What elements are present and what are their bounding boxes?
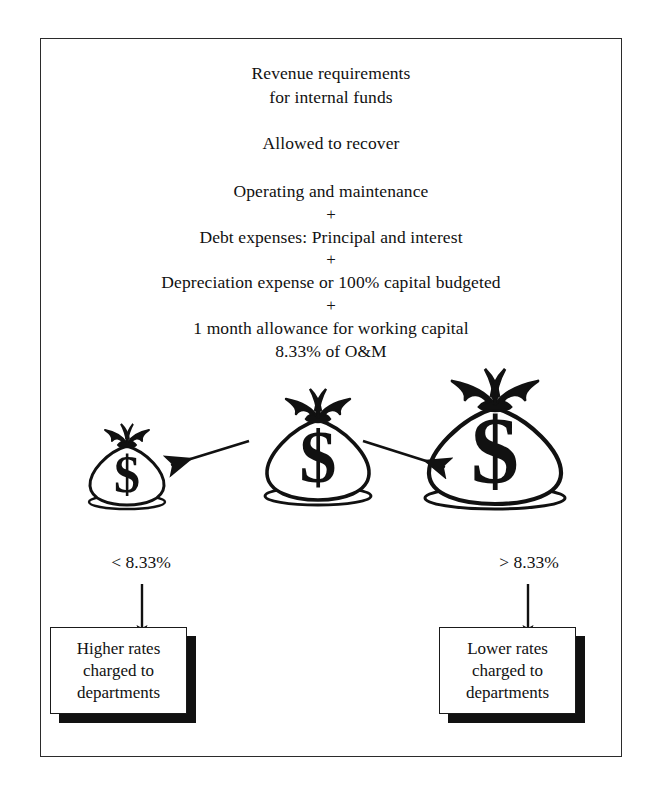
outcome-left-line-2: charged to <box>83 660 154 682</box>
subtitle-text: Allowed to recover <box>41 132 621 156</box>
title-line-2: for internal funds <box>41 86 621 110</box>
formula-line-percent-of-om: 8.33% of O&M <box>41 340 621 364</box>
large-money-bag: $ <box>409 364 581 514</box>
outcome-right-line-2: charged to <box>472 660 543 682</box>
medium-money-bag: $ <box>252 382 384 510</box>
formula-plus-1: + <box>41 204 621 226</box>
outcome-box-right: Lower rates charged to departments <box>439 627 576 714</box>
money-bag-row: $ $ <box>41 369 623 514</box>
title-line-1: Revenue requirements <box>41 62 621 86</box>
formula-plus-2: + <box>41 249 621 271</box>
outcome-box-left-wrapper: Higher rates charged to departments <box>50 627 196 723</box>
large-bag-dollar-symbol: $ <box>471 397 519 504</box>
formula-line-debt-expenses: Debt expenses: Principal and interest <box>41 226 621 250</box>
small-money-bag: $ <box>79 416 175 512</box>
branch-label-right: > 8.33% <box>469 552 589 572</box>
figure-title: Revenue requirements for internal funds <box>41 62 621 109</box>
formula-block: Operating and maintenance + Debt expense… <box>41 180 621 364</box>
formula-plus-3: + <box>41 295 621 317</box>
medium-bag-dollar-symbol: $ <box>300 416 337 498</box>
figure-subtitle: Allowed to recover <box>41 132 621 156</box>
outcome-right-line-1: Lower rates <box>467 638 548 660</box>
outcome-right-line-3: departments <box>466 682 549 704</box>
formula-line-working-capital: 1 month allowance for working capital <box>41 317 621 341</box>
small-bag-dollar-symbol: $ <box>114 446 140 503</box>
formula-line-depreciation: Depreciation expense or 100% capital bud… <box>41 271 621 295</box>
formula-line-operating-maintenance: Operating and maintenance <box>41 180 621 204</box>
outcome-box-left: Higher rates charged to departments <box>50 627 187 714</box>
outcome-left-line-3: departments <box>77 682 160 704</box>
outcome-box-right-wrapper: Lower rates charged to departments <box>439 627 585 723</box>
outcome-left-line-1: Higher rates <box>77 638 161 660</box>
branch-label-left: < 8.33% <box>81 552 201 572</box>
figure-frame: Revenue requirements for internal funds … <box>40 38 622 757</box>
